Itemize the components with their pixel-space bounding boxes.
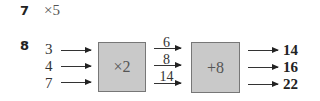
arrow-icon [61,66,91,67]
function-machine-multiply: ×2 [98,42,146,92]
arrow-icon [154,83,181,84]
arrow-icon [61,50,91,51]
question-7-number: 7 [20,3,29,18]
output-value: 22 [283,77,298,92]
arrow-icon [61,82,91,83]
arrow-icon [154,48,181,49]
arrow-icon [248,50,278,51]
function-machine-add: +8 [191,42,240,93]
arrow-icon [248,84,278,85]
question-8-number: 8 [20,38,29,53]
input-value: 3 [45,42,53,57]
output-value: 14 [283,43,298,58]
question-7-answer: ×5 [44,2,60,19]
input-value: 7 [45,76,53,91]
arrow-icon [248,67,278,68]
output-value: 16 [283,60,298,75]
input-value: 4 [45,59,53,74]
arrow-icon [154,65,181,66]
